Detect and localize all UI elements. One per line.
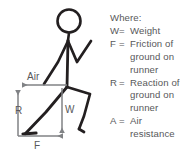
- runner-front-leg: [25, 87, 67, 134]
- legend-text-r: Reaction of: [130, 77, 196, 90]
- legend-entry-a: A = Air: [110, 115, 196, 128]
- force-vectors: [18, 85, 67, 136]
- legend-block: Where: W = Weight F = Friction of ground…: [110, 12, 196, 141]
- legend-text-f-cont-1: ground on: [110, 51, 196, 64]
- legend-text-r-cont-1: ground on: [110, 89, 196, 102]
- legend-text-w: Weight: [130, 25, 196, 38]
- runner-front-foot: [23, 133, 36, 134]
- legend-text-f: Friction of: [130, 38, 196, 51]
- legend-entry-f: F = Friction of: [110, 38, 196, 51]
- legend-equals-w: =: [119, 25, 130, 38]
- legend-entry-w: W = Weight: [110, 25, 196, 38]
- legend-symbol-r: R: [110, 77, 119, 90]
- legend-text-f-cont-2: runner: [110, 64, 196, 77]
- runner-torso: [67, 41, 68, 88]
- friction-label: F: [34, 141, 40, 151]
- legend-equals-r: =: [119, 77, 130, 90]
- reaction-label: R: [15, 106, 22, 116]
- legend-equals-a: =: [119, 115, 130, 128]
- runner-head: [58, 10, 81, 33]
- legend-text-a-cont-1: resistance: [110, 128, 196, 141]
- runner-rear-foot: [79, 129, 84, 132]
- legend-text-a: Air: [130, 115, 196, 128]
- force-diagram-page: Air R W F Where: W = Weight F = Friction…: [0, 0, 196, 161]
- legend-text-r-cont-2: runner: [110, 102, 196, 115]
- air-resistance-label: Air: [27, 72, 39, 82]
- legend-symbol-a: A: [110, 115, 119, 128]
- runner-back-arm: [44, 41, 68, 84]
- legend-heading: Where:: [110, 12, 196, 25]
- legend-symbol-f: F: [110, 38, 119, 51]
- legend-symbol-w: W: [110, 25, 119, 38]
- weight-label: W: [65, 105, 74, 115]
- runner-front-arm: [68, 41, 91, 62]
- legend-equals-f: =: [119, 38, 130, 51]
- legend-entry-r: R = Reaction of: [110, 77, 196, 90]
